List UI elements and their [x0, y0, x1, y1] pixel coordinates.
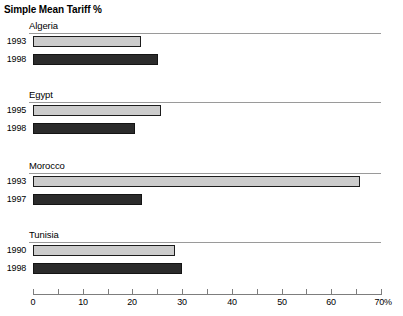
x-axis-tick	[381, 289, 382, 295]
x-axis-tick-label: 40	[227, 297, 237, 307]
bar-year-label: 1993	[0, 175, 26, 188]
bar	[33, 36, 141, 47]
bar	[33, 263, 182, 274]
x-axis: 010203040506070%	[0, 288, 403, 316]
bar	[33, 245, 175, 256]
bar	[33, 105, 161, 116]
bar-year-label: 1997	[0, 193, 26, 206]
x-axis-tick-label: 30	[177, 297, 187, 307]
group-divider	[29, 33, 381, 34]
x-axis-tick	[157, 289, 158, 295]
x-axis-tick	[207, 289, 208, 295]
country-label: Algeria	[29, 20, 58, 31]
x-axis-tick	[306, 289, 307, 295]
plot-area: Algeria19931998Egypt19951998Morocco19931…	[0, 20, 403, 288]
tariff-bar-chart: Simple Mean Tariff % Algeria19931998Egyp…	[0, 0, 403, 316]
x-axis-tick	[356, 289, 357, 295]
x-axis-tick	[282, 289, 283, 295]
country-label: Morocco	[29, 160, 65, 171]
x-axis-tick	[33, 289, 34, 295]
bar	[33, 54, 158, 65]
x-axis-tick	[132, 289, 133, 295]
group-divider	[29, 173, 381, 174]
bar-year-label: 1998	[0, 53, 26, 66]
x-axis-tick	[58, 289, 59, 295]
x-axis-tick-label: 20	[127, 297, 137, 307]
bar-year-label: 1998	[0, 262, 26, 275]
bar	[33, 194, 142, 205]
x-axis-tick-label: 50	[277, 297, 287, 307]
group-divider	[29, 242, 381, 243]
bar-year-label: 1990	[0, 244, 26, 257]
x-axis-tick-label: 0	[31, 297, 36, 307]
x-axis-tick-label: 60	[326, 297, 336, 307]
x-axis-tick-label: 70%	[374, 297, 391, 307]
bar	[33, 123, 135, 134]
x-axis-tick	[83, 289, 84, 295]
x-axis-tick	[257, 289, 258, 295]
bar-year-label: 1995	[0, 104, 26, 117]
x-axis-tick	[182, 289, 183, 295]
x-axis-tick	[331, 289, 332, 295]
country-label: Egypt	[29, 89, 53, 100]
bar-year-label: 1993	[0, 35, 26, 48]
chart-title: Simple Mean Tariff %	[4, 4, 102, 15]
x-axis-tick-label: 10	[78, 297, 88, 307]
x-axis-tick	[232, 289, 233, 295]
bar-year-label: 1998	[0, 122, 26, 135]
group-divider	[29, 102, 381, 103]
country-label: Tunisia	[29, 229, 59, 240]
x-axis-tick	[108, 289, 109, 295]
bar	[33, 176, 360, 187]
